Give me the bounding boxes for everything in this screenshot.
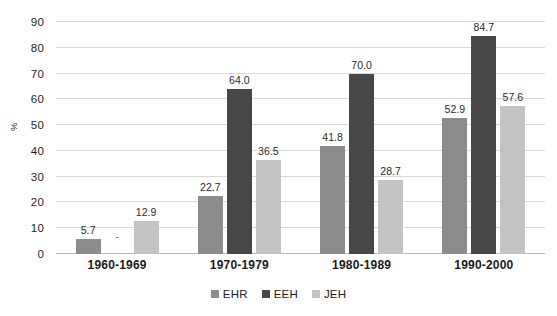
bar-value-label: 36.5 (258, 145, 279, 157)
bar-group: 5.7-12.9 (56, 22, 178, 254)
bar-no-data-marker: - (115, 231, 119, 242)
x-axis-category-label: 1990-2000 (454, 258, 513, 272)
bar-jeh[interactable]: 12.9 (134, 221, 159, 254)
y-axis-tick: 40 (31, 145, 44, 157)
bar-value-label: 84.7 (473, 21, 494, 33)
chart-legend: EHREEHJEH (0, 288, 557, 300)
bar-ehr[interactable]: 52.9 (442, 118, 467, 254)
bar-group: 52.984.757.6 (423, 22, 545, 254)
legend-item-ehr[interactable]: EHR (211, 288, 248, 300)
y-axis-tick: 50 (31, 119, 44, 131)
y-axis-tick-labels: 0102030405060708090 (0, 22, 52, 254)
bar-value-label: 70.0 (351, 59, 372, 71)
bar-ehr[interactable]: 5.7 (76, 239, 101, 254)
bar-chart: 0102030405060708090 % 5.7-12.922.764.036… (0, 0, 557, 316)
bar-group-bars: 5.7-12.9 (56, 22, 178, 254)
bar-value-label: 41.8 (322, 131, 343, 143)
bar-eeh[interactable]: 84.7 (471, 36, 496, 254)
y-axis-tick: 0 (37, 248, 44, 260)
legend-item-label: JEH (324, 288, 346, 300)
bar-groups: 5.7-12.922.764.036.541.870.028.752.984.7… (56, 22, 545, 254)
y-axis-tick: 90 (31, 16, 44, 28)
x-axis-category-labels: 1960-19691970-19791980-19891990-2000 (56, 258, 545, 280)
bar-group-bars: 41.870.028.7 (301, 22, 423, 254)
x-axis-category-label: 1960-1969 (88, 258, 147, 272)
bar-value-label: 5.7 (81, 224, 96, 236)
bar-group-bars: 52.984.757.6 (423, 22, 545, 254)
y-axis-tick: 10 (31, 222, 44, 234)
legend-swatch-icon (211, 290, 219, 298)
bar-eeh[interactable]: 70.0 (349, 74, 374, 254)
bar-jeh[interactable]: 36.5 (256, 160, 281, 254)
legend-item-label: EHR (223, 288, 248, 300)
bar-value-label: 28.7 (380, 165, 401, 177)
x-axis-category-label: 1970-1979 (210, 258, 269, 272)
y-axis-title: % (8, 123, 19, 131)
bar-value-label: 52.9 (444, 103, 465, 115)
legend-item-label: EEH (274, 288, 298, 300)
y-axis-tick: 60 (31, 93, 44, 105)
bar-group-bars: 22.764.036.5 (178, 22, 300, 254)
y-axis-tick: 80 (31, 42, 44, 54)
bar-value-label: 22.7 (200, 181, 221, 193)
bar-value-label: 64.0 (229, 74, 250, 86)
legend-swatch-icon (312, 290, 320, 298)
bar-group: 22.764.036.5 (178, 22, 300, 254)
bar-eeh[interactable]: 64.0 (227, 89, 252, 254)
bar-group: 41.870.028.7 (301, 22, 423, 254)
bar-value-label: 57.6 (502, 91, 523, 103)
x-axis-category-label: 1980-1989 (332, 258, 391, 272)
bar-jeh[interactable]: 57.6 (500, 106, 525, 254)
bar-ehr[interactable]: 41.8 (320, 146, 345, 254)
plot-area: 5.7-12.922.764.036.541.870.028.752.984.7… (56, 22, 545, 254)
y-axis-tick: 20 (31, 196, 44, 208)
bar-jeh[interactable]: 28.7 (378, 180, 403, 254)
bar-value-label: 12.9 (136, 206, 157, 218)
y-axis-tick: 30 (31, 171, 44, 183)
y-axis-tick: 70 (31, 68, 44, 80)
bar-ehr[interactable]: 22.7 (198, 196, 223, 255)
legend-item-jeh[interactable]: JEH (312, 288, 346, 300)
legend-item-eeh[interactable]: EEH (262, 288, 298, 300)
legend-swatch-icon (262, 290, 270, 298)
